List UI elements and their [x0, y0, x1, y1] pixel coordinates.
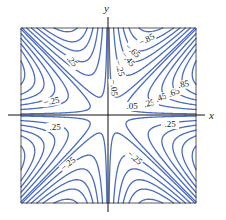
- contour-label: −.85: [137, 31, 157, 48]
- contour-label: .25: [49, 122, 61, 132]
- contour-label: .85: [177, 78, 190, 90]
- contour-label: −.05: [108, 79, 119, 97]
- contour-label: .25: [164, 119, 176, 129]
- x-axis-label: x: [208, 109, 214, 121]
- y-axis-label: y: [103, 2, 109, 14]
- contour-label: −.25: [43, 95, 61, 108]
- contour-label: .05: [126, 101, 138, 111]
- contour-plot: x y −.85−.65−.45−.25−.05.05.25.45.65.85.…: [0, 0, 226, 220]
